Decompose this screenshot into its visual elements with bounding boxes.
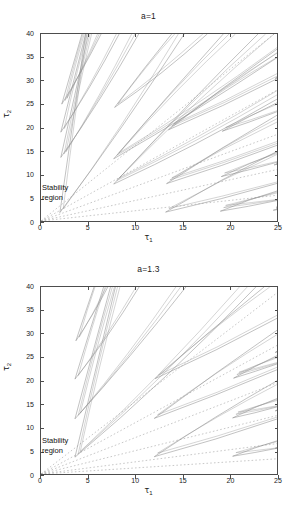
- xtick-mark: [135, 222, 136, 226]
- xtick-mark: [230, 475, 231, 479]
- plot-panel-a: a=1 40 35 30 25 20 15 10 5 0 0 5 10: [0, 0, 297, 253]
- x-axis-label-a: τ1: [0, 233, 297, 243]
- ytick-mark: [275, 333, 279, 334]
- xtick-mark: [135, 286, 136, 290]
- ytick-mark: [275, 151, 279, 152]
- ytick-label: 30: [0, 77, 34, 84]
- xtick-mark: [183, 222, 184, 226]
- y-axis-label-b: τ2: [2, 363, 12, 371]
- plot-title-a: a=1: [0, 11, 297, 21]
- ytick-mark: [40, 310, 44, 311]
- xtick-mark: [135, 33, 136, 37]
- ytick-mark: [40, 333, 44, 334]
- ytick-mark: [40, 428, 44, 429]
- ytick-mark: [275, 80, 279, 81]
- y-axis-label-symbol: τ: [2, 366, 11, 371]
- ytick-label: 40: [0, 30, 34, 37]
- ytick-mark: [40, 151, 44, 152]
- ytick-mark: [275, 452, 279, 453]
- annotation-line-1: Stability: [42, 436, 68, 446]
- ytick-mark: [275, 357, 279, 358]
- ytick-label: 35: [0, 53, 34, 60]
- x-axis-label-b: τ1: [0, 486, 297, 496]
- ytick-mark: [40, 357, 44, 358]
- y-axis-label-subscript: 2: [6, 363, 12, 366]
- x-axis-label-subscript: 1: [149, 237, 152, 243]
- ytick-label: 40: [0, 283, 34, 290]
- x-axis-label-subscript: 1: [149, 490, 152, 496]
- xtick-mark: [88, 286, 89, 290]
- ytick-mark: [40, 33, 44, 34]
- ytick-mark: [40, 381, 44, 382]
- plot-curves-b: [41, 287, 277, 474]
- ytick-mark: [275, 310, 279, 311]
- annotation-line-2: region: [42, 193, 68, 203]
- annotation-line-2: region: [42, 446, 68, 456]
- ytick-label: 15: [0, 148, 34, 155]
- xtick-mark: [88, 475, 89, 479]
- ytick-mark: [40, 104, 44, 105]
- plot-area-b: [40, 286, 278, 475]
- xtick-mark: [278, 475, 279, 479]
- ytick-mark: [40, 57, 44, 58]
- xtick-mark: [183, 33, 184, 37]
- ytick-mark: [275, 175, 279, 176]
- xtick-mark: [183, 475, 184, 479]
- ytick-label: 20: [0, 377, 34, 384]
- plot-area-a: [40, 33, 278, 222]
- annotation-line-1: Stability: [42, 183, 68, 193]
- ytick-mark: [275, 128, 279, 129]
- xtick-mark: [278, 222, 279, 226]
- xtick-mark: [230, 33, 231, 37]
- xtick-mark: [88, 222, 89, 226]
- ytick-mark: [275, 57, 279, 58]
- xtick-mark: [88, 33, 89, 37]
- ytick-label: 30: [0, 330, 34, 337]
- ytick-label: 10: [0, 171, 34, 178]
- y-axis-label-subscript: 2: [6, 110, 12, 113]
- ytick-label: 10: [0, 424, 34, 431]
- plot-curves-a: [41, 34, 277, 221]
- y-axis-label-a: τ2: [2, 110, 12, 118]
- xtick-mark: [230, 222, 231, 226]
- xtick-mark: [40, 222, 41, 226]
- ytick-mark: [40, 128, 44, 129]
- ytick-mark: [40, 404, 44, 405]
- xtick-mark: [230, 286, 231, 290]
- y-axis-label-symbol: τ: [2, 113, 11, 118]
- ytick-mark: [40, 286, 44, 287]
- ytick-mark: [275, 199, 279, 200]
- ytick-label: 5: [0, 448, 34, 455]
- xtick-mark: [135, 475, 136, 479]
- ytick-label: 5: [0, 195, 34, 202]
- ytick-label: 25: [0, 353, 34, 360]
- xtick-mark: [183, 286, 184, 290]
- stability-chart-figure: a=1 40 35 30 25 20 15 10 5 0 0 5 10: [0, 0, 297, 506]
- ytick-mark: [40, 80, 44, 81]
- ytick-mark: [275, 404, 279, 405]
- plot-panel-b: a=1.3 40 35 30 25 20 15 10 5 0 0 5 10 15: [0, 253, 297, 506]
- xtick-mark: [40, 475, 41, 479]
- ytick-mark: [275, 286, 279, 287]
- ytick-label: 15: [0, 401, 34, 408]
- ytick-mark: [275, 33, 279, 34]
- stability-region-annotation-b: Stability region: [42, 436, 68, 455]
- plot-title-b: a=1.3: [0, 264, 297, 274]
- ytick-label: 35: [0, 306, 34, 313]
- ytick-mark: [40, 175, 44, 176]
- ytick-mark: [275, 381, 279, 382]
- ytick-mark: [275, 104, 279, 105]
- ytick-label: 20: [0, 124, 34, 131]
- stability-region-annotation-a: Stability region: [42, 183, 68, 202]
- ytick-mark: [275, 428, 279, 429]
- ytick-label: 25: [0, 100, 34, 107]
